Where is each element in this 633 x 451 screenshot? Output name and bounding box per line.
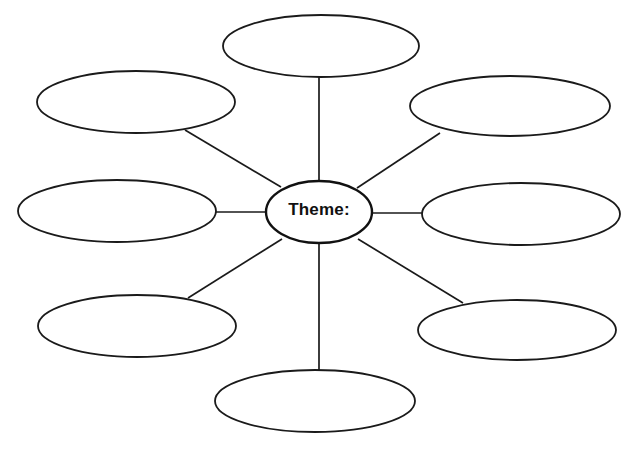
connector-top-left <box>185 130 281 187</box>
center-label: Theme: <box>288 200 350 219</box>
concept-map-diagram: Theme: <box>0 0 633 451</box>
bubble-bottom-left[interactable] <box>38 295 236 357</box>
bubble-right-outline[interactable] <box>422 183 620 245</box>
bubble-bottom-outline[interactable] <box>215 370 415 432</box>
bubble-left-outline[interactable] <box>18 180 216 242</box>
connector-top-right <box>357 133 440 188</box>
connector-bottom-left <box>188 239 282 298</box>
bubble-bottom[interactable] <box>215 370 415 432</box>
bubble-top-right[interactable] <box>410 76 610 136</box>
bubble-top-left-outline[interactable] <box>37 71 235 133</box>
bubble-bottom-right[interactable] <box>418 300 616 360</box>
bubble-left[interactable] <box>18 180 216 242</box>
bubble-bottom-right-outline[interactable] <box>418 300 616 360</box>
bubble-right[interactable] <box>422 183 620 245</box>
bubble-bottom-left-outline[interactable] <box>38 295 236 357</box>
bubble-top-left[interactable] <box>37 71 235 133</box>
bubble-top-right-outline[interactable] <box>410 76 610 136</box>
worksheet-canvas: Theme: <box>0 0 633 451</box>
bubble-top-outline[interactable] <box>223 15 419 77</box>
connector-bottom-right <box>358 239 463 303</box>
center-node[interactable]: Theme: <box>266 181 372 243</box>
bubble-top[interactable] <box>223 15 419 77</box>
